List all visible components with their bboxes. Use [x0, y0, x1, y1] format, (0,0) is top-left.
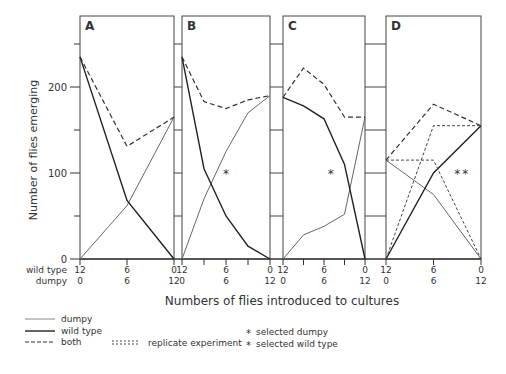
x-tick-dumpy: 12 — [264, 276, 275, 286]
x-tick-dumpy: 6 — [431, 276, 437, 286]
x-tick-dumpy: 0 — [280, 276, 286, 286]
asterisk-marker: * — [328, 167, 334, 181]
x-tick-wild: 12 — [74, 265, 85, 275]
series-wild-type — [80, 57, 174, 259]
row-label-dumpy: dumpy — [36, 276, 68, 286]
x-tick-dumpy: 0 — [179, 276, 185, 286]
series-dumpy — [283, 117, 365, 259]
x-tick-dumpy: 12 — [475, 276, 486, 286]
x-tick-wild: 12 — [277, 265, 288, 275]
asterisk-marker: * — [462, 167, 468, 181]
x-tick-dumpy: 6 — [124, 276, 130, 286]
x-tick-dumpy: 12 — [359, 276, 370, 286]
panel-label: C — [288, 19, 297, 33]
x-tick-wild: 6 — [431, 265, 437, 275]
panel-frame-A — [80, 16, 174, 259]
series-wild-type — [283, 97, 365, 259]
x-tick-wild: 12 — [380, 265, 391, 275]
legend-both: both — [61, 337, 81, 347]
legend-replicate: replicate experiment — [148, 338, 242, 348]
y-axis-label: Number of flies emerging — [27, 80, 40, 220]
asterisk-marker: * — [454, 167, 460, 181]
svg-text:*: * — [246, 340, 251, 351]
x-axis-label: Numbers of flies introduced to cultures — [165, 294, 399, 308]
x-tick-wild: 0 — [267, 265, 273, 275]
y-tick-label: 100 — [48, 168, 67, 179]
legend-dumpy: dumpy — [61, 314, 93, 324]
series-both — [386, 104, 481, 160]
x-tick-wild: 0 — [478, 265, 484, 275]
chart-figure: 0100200Number of flies emergingA12066012… — [0, 0, 506, 374]
x-tick-dumpy: 0 — [383, 276, 389, 286]
panel-label: B — [187, 19, 196, 33]
x-tick-dumpy: 12 — [168, 276, 179, 286]
panel-label: D — [391, 19, 401, 33]
legend-selected-wild: selected wild type — [256, 339, 338, 349]
svg-text:*: * — [246, 328, 251, 339]
panel-frame-C — [283, 16, 365, 259]
y-tick-label: 0 — [61, 254, 67, 265]
x-tick-wild: 6 — [321, 265, 327, 275]
x-tick-dumpy: 6 — [321, 276, 327, 286]
x-tick-wild: 6 — [223, 265, 229, 275]
x-tick-wild: 6 — [124, 265, 130, 275]
series-dumpy — [80, 117, 174, 259]
panel-label: A — [85, 19, 95, 33]
series-both — [283, 68, 365, 117]
x-tick-wild: 0 — [362, 265, 368, 275]
asterisk-marker: * — [223, 167, 229, 181]
series-both — [182, 57, 270, 109]
legend-wild-type: wild type — [61, 326, 103, 336]
row-label-wild: wild type — [26, 265, 68, 275]
legend-selected-dumpy: selected dumpy — [256, 327, 329, 337]
x-tick-dumpy: 6 — [223, 276, 229, 286]
x-tick-dumpy: 0 — [77, 276, 83, 286]
y-tick-label: 200 — [48, 82, 67, 93]
x-tick-wild: 12 — [176, 265, 187, 275]
series-wild-type — [182, 57, 270, 259]
panel-frame-D — [386, 16, 481, 259]
